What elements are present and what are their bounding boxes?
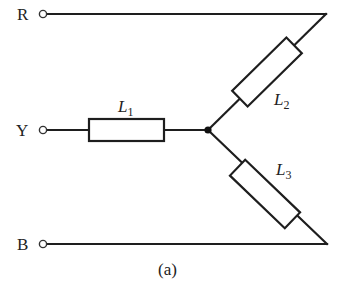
terminal-y-label: Y (16, 121, 28, 140)
figure-caption: (a) (158, 260, 177, 279)
l1-label: L1 (117, 97, 133, 119)
terminal-r-label: R (17, 5, 29, 24)
l1-load-box (89, 119, 164, 141)
star-junction-dot (204, 126, 211, 133)
terminal-b-icon (39, 240, 46, 247)
l3-label: L3 (275, 160, 291, 182)
terminal-r-icon (39, 10, 46, 17)
star-connection-diagram: R Y B L1 L2 L3 (a) (0, 0, 342, 281)
terminal-b-label: B (17, 235, 28, 254)
l2-label: L2 (273, 90, 289, 112)
terminal-y-icon (39, 126, 46, 133)
l2-load-box (232, 38, 302, 107)
